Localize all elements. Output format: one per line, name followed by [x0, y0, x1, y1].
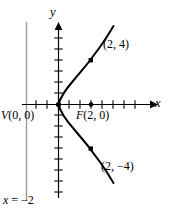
- x-axis-label: x: [155, 97, 161, 110]
- point-lower-marker: [89, 146, 93, 150]
- point-upper-marker: [89, 58, 93, 62]
- directrix-label: x = −2: [3, 194, 34, 206]
- vertex-marker: [56, 102, 61, 107]
- point-upper-label: (2, 4): [103, 38, 129, 50]
- focus-marker: [89, 102, 94, 107]
- y-axis-label: y: [50, 6, 56, 19]
- focus-label: F(2, 0): [76, 109, 109, 121]
- vertex-label: V(0, 0): [1, 109, 34, 121]
- parabola-figure: y x V(0, 0) F(2, 0) (2, 4) (2, −4) x = −…: [0, 0, 170, 217]
- point-lower-label: (2, −4): [101, 160, 134, 172]
